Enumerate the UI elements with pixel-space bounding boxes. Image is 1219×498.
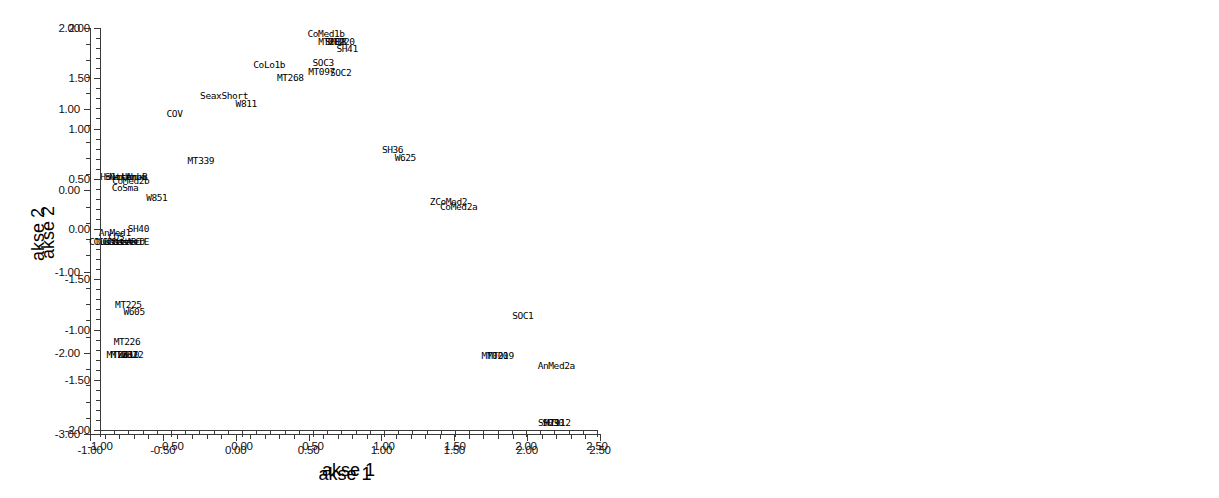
data-point-label: W851: [146, 193, 167, 203]
x-tick-label-right-6: 2.00: [515, 440, 537, 452]
x-tick-minor-left-6-4: [585, 435, 586, 439]
x-tick-major-right-5: [455, 431, 456, 437]
y-tick-minor-right-3-3: [96, 209, 100, 210]
x-tick-label-right-4: 1.00: [373, 440, 395, 452]
x-tick-minor-right-0-2: [128, 431, 129, 435]
x-tick-minor-left-2-2: [265, 435, 266, 439]
y-tick-label-right-8: -2.00: [48, 424, 90, 436]
y-tick-minor-right-5-1: [96, 289, 100, 290]
y-axis-line-left: [90, 28, 91, 435]
x-tick-minor-left-2-3: [279, 435, 280, 439]
y-tick-label-right-2: 1.00: [48, 123, 90, 135]
data-point-label: MT226: [114, 337, 141, 347]
y-tick-minor-left-2-1: [86, 207, 90, 208]
y-tick-minor-right-7-1: [96, 390, 100, 391]
x-tick-minor-left-4-3: [425, 435, 426, 439]
x-tick-minor-right-3-2: [341, 431, 342, 435]
x-tick-minor-left-3-1: [323, 435, 324, 439]
x-tick-minor-right-1-1: [185, 431, 186, 435]
x-tick-minor-right-4-4: [441, 431, 442, 435]
data-point-label: W612: [122, 350, 143, 360]
x-tick-minor-right-0-3: [143, 431, 144, 435]
y-tick-minor-right-6-1: [96, 340, 100, 341]
y-tick-minor-left-4-3: [86, 402, 90, 403]
x-tick-minor-left-1-4: [221, 435, 222, 439]
y-tick-minor-left-1-3: [86, 158, 90, 159]
x-tick-minor-left-1-2: [192, 435, 193, 439]
x-tick-minor-right-4-3: [427, 431, 428, 435]
y-tick-major-left-1: [84, 109, 90, 110]
data-point-label: W625: [395, 153, 416, 163]
x-tick-minor-left-5-3: [498, 435, 499, 439]
y-tick-minor-left-4-4: [86, 418, 90, 419]
y-tick-minor-right-0-2: [96, 48, 100, 49]
x-tick-minor-right-4-2: [412, 431, 413, 435]
data-point-label: MT112: [544, 418, 571, 428]
data-point-label: MT097: [308, 67, 335, 77]
x-axis-title-right: akse 1: [322, 460, 375, 481]
x-tick-minor-left-0-1: [105, 435, 106, 439]
y-tick-major-left-4: [84, 353, 90, 354]
x-tick-major-right-1: [171, 431, 172, 437]
data-point-label: CoMed2a: [440, 202, 477, 212]
x-tick-minor-left-2-1: [250, 435, 251, 439]
x-tick-minor-left-6-3: [571, 435, 572, 439]
x-tick-major-right-7: [597, 431, 598, 437]
x-tick-minor-right-3-1: [327, 431, 328, 435]
y-tick-minor-right-4-1: [96, 239, 100, 240]
y-axis-title-right: akse 2: [38, 206, 59, 259]
x-tick-label-right-1: -0.50: [158, 440, 183, 452]
y-tick-major-left-2: [84, 190, 90, 191]
y-tick-minor-left-2-4: [86, 255, 90, 256]
figure-root: 2.001.000.00-1.00-2.00-3.00-1.00-0.500.0…: [0, 0, 1219, 498]
x-tick-minor-left-0-3: [134, 435, 135, 439]
x-tick-minor-right-1-3: [214, 431, 215, 435]
x-tick-minor-right-6-1: [540, 431, 541, 435]
y-tick-major-right-6: [94, 330, 100, 331]
x-tick-minor-right-0-4: [157, 431, 158, 435]
data-point-label: SOC1: [512, 311, 533, 321]
x-tick-minor-left-5-1: [469, 435, 470, 439]
y-tick-minor-right-2-4: [96, 169, 100, 170]
y-tick-major-right-4: [94, 229, 100, 230]
y-axis-line-right: [100, 28, 101, 431]
y-tick-minor-right-7-2: [96, 400, 100, 401]
data-point-label: SH40: [128, 224, 149, 234]
data-point-label: COV: [167, 109, 183, 119]
x-tick-minor-left-6-1: [542, 435, 543, 439]
y-tick-label-right-1: 1.50: [48, 72, 90, 84]
y-tick-minor-right-1-2: [96, 98, 100, 99]
x-tick-label-right-0: -1.00: [87, 440, 112, 452]
x-tick-minor-right-2-1: [256, 431, 257, 435]
y-tick-minor-right-1-3: [96, 108, 100, 109]
x-tick-minor-right-1-4: [228, 431, 229, 435]
y-tick-label-left-4: -2.00: [38, 347, 80, 359]
x-axis-line-right: [100, 430, 598, 431]
x-tick-minor-right-3-3: [356, 431, 357, 435]
x-tick-minor-right-6-4: [583, 431, 584, 435]
x-tick-minor-left-1-1: [177, 435, 178, 439]
y-tick-minor-right-5-3: [96, 309, 100, 310]
y-tick-minor-right-2-3: [96, 159, 100, 160]
data-point-label: MT020: [481, 351, 508, 361]
y-tick-minor-right-3-2: [96, 199, 100, 200]
y-tick-label-right-6: -1.00: [48, 324, 90, 336]
x-tick-minor-left-3-2: [338, 435, 339, 439]
data-point-label: AnMed2a: [538, 361, 575, 371]
x-tick-minor-right-6-3: [569, 431, 570, 435]
x-tick-minor-right-5-1: [469, 431, 470, 435]
x-tick-minor-right-0-1: [114, 431, 115, 435]
y-tick-label-right-3: 0.50: [48, 173, 90, 185]
x-tick-minor-right-2-3: [285, 431, 286, 435]
y-tick-minor-right-0-4: [96, 68, 100, 69]
data-point-label: SH41: [336, 44, 357, 54]
x-tick-major-right-6: [526, 431, 527, 437]
x-tick-minor-right-5-3: [498, 431, 499, 435]
x-tick-minor-left-4-4: [440, 435, 441, 439]
y-tick-minor-right-3-4: [96, 219, 100, 220]
y-tick-minor-left-0-4: [86, 93, 90, 94]
data-point-label: CoLo1b: [253, 60, 285, 70]
x-tick-minor-left-5-2: [483, 435, 484, 439]
y-tick-minor-right-6-4: [96, 370, 100, 371]
x-tick-minor-right-6-2: [554, 431, 555, 435]
